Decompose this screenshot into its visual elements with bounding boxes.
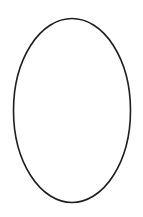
diagram-svg xyxy=(0,0,143,217)
diagram-canvas xyxy=(0,0,143,217)
ellipse-shape xyxy=(14,19,131,203)
